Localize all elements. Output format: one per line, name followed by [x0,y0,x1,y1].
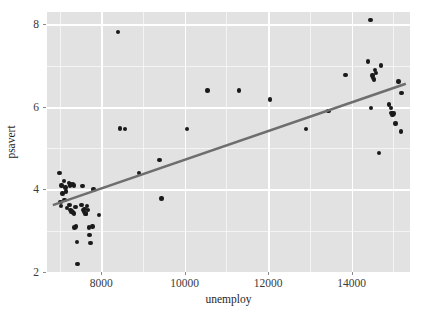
plot-panel [47,12,410,272]
x-axis-label: unemploy [47,293,410,305]
y-tick-label: 2 [33,266,39,278]
y-tick-label: 4 [33,183,39,195]
y-tick-mark [43,272,46,273]
x-tick-label: 12000 [254,277,283,289]
x-tick-mark [185,272,186,275]
regression-line [47,12,410,272]
x-tick-label: 8000 [90,277,113,289]
x-tick-mark [101,272,102,275]
x-tick-label: 14000 [337,277,366,289]
y-axis-label: psavert [4,12,18,272]
scatter-plot-figure: 8000100001200014000 2468 unemploy psaver… [0,0,432,316]
y-tick-label: 6 [33,101,39,113]
x-tick-label: 10000 [170,277,199,289]
y-tick-mark [43,189,46,190]
x-tick-mark [268,272,269,275]
y-tick-mark [43,107,46,108]
y-tick-mark [43,24,46,25]
y-axis-label-text: psavert [5,125,17,158]
y-tick-label: 8 [33,18,39,30]
x-tick-mark [352,272,353,275]
